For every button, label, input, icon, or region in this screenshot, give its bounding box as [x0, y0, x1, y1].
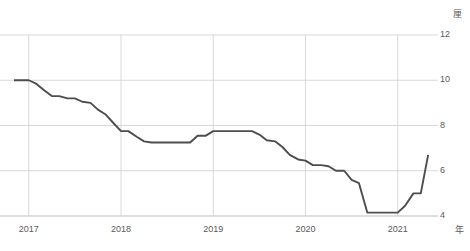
y-tick-label-6: 6 — [440, 166, 445, 175]
series-line-金利 — [14, 80, 428, 212]
plot-svg — [14, 35, 430, 216]
x-axis-unit-label: 年 — [455, 226, 464, 235]
x-tick-label-2021: 2021 — [388, 225, 408, 234]
y-tick-label-12: 12 — [440, 30, 450, 39]
plot-area — [14, 35, 430, 216]
y-axis-unit-label: 厘 — [453, 10, 462, 19]
rate-line-chart: 厘 年 1210864 20172018201920202021 — [0, 0, 470, 251]
x-tick-label-2019: 2019 — [203, 225, 223, 234]
y-tick-label-8: 8 — [440, 121, 445, 130]
x-tick-label-2020: 2020 — [295, 225, 315, 234]
x-tick-label-2018: 2018 — [111, 225, 131, 234]
y-tick-label-4: 4 — [440, 211, 445, 220]
y-tick-label-10: 10 — [440, 75, 450, 84]
horizontal-gridlines — [0, 35, 438, 216]
x-tick-label-2017: 2017 — [19, 225, 39, 234]
